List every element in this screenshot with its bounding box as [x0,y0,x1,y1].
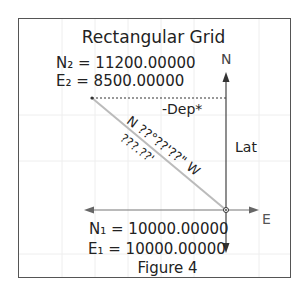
point-1-easting: E₁ = 10000.00000 [88,240,226,258]
diagram-title: Rectangular Grid [0,27,307,47]
east-arrowhead [249,207,259,214]
east-axis-label: E [262,211,271,227]
point-2-northing: N₂ = 11200.00000 [56,54,196,72]
departure-label: -Dep* [162,101,202,117]
west-arrowhead [84,207,94,214]
latitude-label: Lat [235,139,257,155]
north-arrowhead [223,72,230,82]
north-axis-label: N [221,51,231,67]
figure-caption: Figure 4 [0,259,307,277]
point-2-marker [90,96,93,99]
point-1-northing: N₁ = 10000.00000 [89,220,229,238]
point-2-easting: E₂ = 8500.00000 [56,72,184,90]
